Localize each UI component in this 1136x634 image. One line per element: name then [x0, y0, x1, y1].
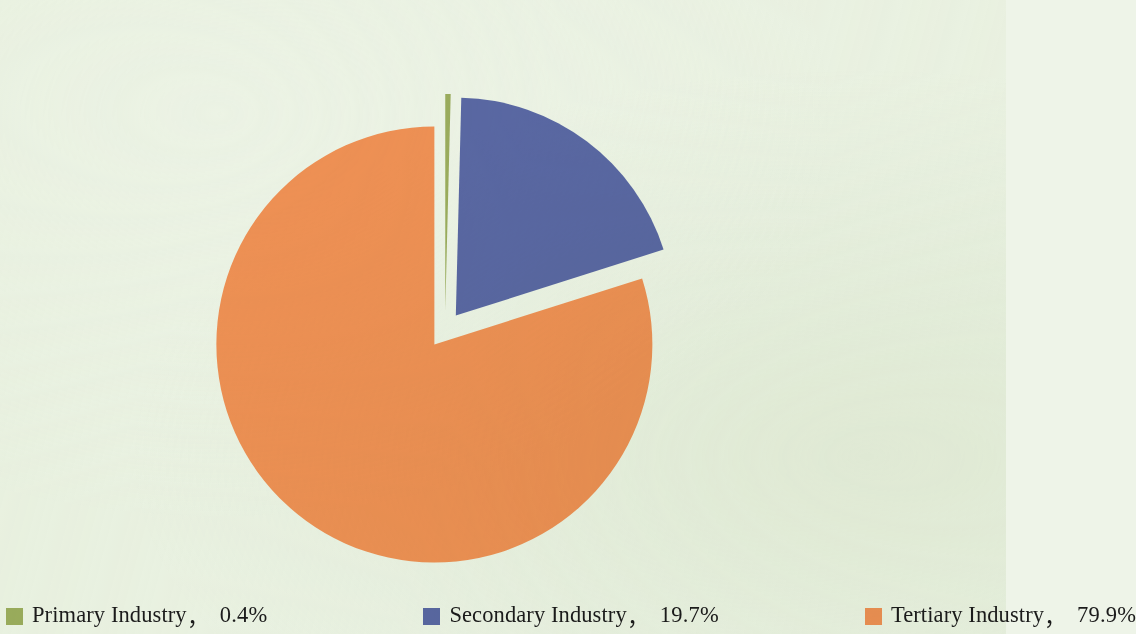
legend-value-secondary-industry: 19.7%: [660, 604, 719, 627]
legend-value-primary-industry: 0.4%: [220, 604, 268, 627]
legend-item-secondary-industry[interactable]: Secondary Industry ， 19.7%: [423, 599, 719, 631]
legend-item-primary-industry[interactable]: Primary Industry ， 0.4%: [6, 599, 267, 631]
chart-legend: Primary Industry ， 0.4% Secondary Indust…: [0, 596, 1006, 634]
pie-chart-area: [0, 0, 1006, 590]
pie-chart-svg: [0, 0, 1006, 590]
legend-separator: ，: [1044, 599, 1067, 631]
legend-value-tertiary-industry: 79.9%: [1077, 604, 1136, 627]
legend-swatch-secondary-industry: [423, 608, 440, 625]
legend-label-tertiary-industry: Tertiary Industry: [891, 604, 1044, 627]
legend-separator: ，: [627, 599, 650, 631]
pie-slices: [216, 94, 663, 563]
pie-slice-primary-industry[interactable]: [445, 94, 450, 312]
legend-label-secondary-industry: Secondary Industry: [449, 604, 626, 627]
legend-item-tertiary-industry[interactable]: Tertiary Industry ， 79.9%: [865, 599, 1136, 631]
legend-separator: ，: [187, 599, 210, 631]
legend-swatch-tertiary-industry: [865, 608, 882, 625]
legend-swatch-primary-industry: [6, 608, 23, 625]
legend-label-primary-industry: Primary Industry: [32, 604, 187, 627]
